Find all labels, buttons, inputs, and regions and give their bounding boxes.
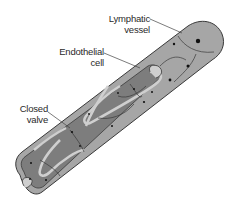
- label-line: vessel: [106, 24, 150, 35]
- lymphatic-vessel-diagram: Lymphatic vessel Endothelial cell Closed…: [0, 0, 239, 210]
- label-endothelial-cell: Endothelial cell: [56, 46, 104, 68]
- label-line: Closed: [14, 103, 48, 114]
- label-line: Lymphatic: [106, 13, 150, 24]
- label-closed-valve: Closed valve: [14, 103, 48, 125]
- label-line: cell: [56, 57, 104, 68]
- vessel-lumen: [21, 65, 161, 188]
- label-line: Endothelial: [56, 46, 104, 57]
- label-lymphatic-vessel: Lymphatic vessel: [106, 13, 150, 35]
- label-line: valve: [14, 114, 48, 125]
